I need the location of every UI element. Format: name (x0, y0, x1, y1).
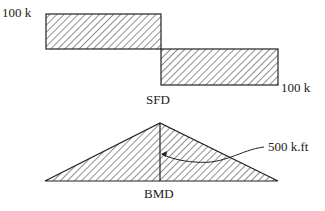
bending-moment-diagram (45, 123, 278, 181)
sfd-left-value: 100 k (2, 5, 31, 21)
bmd-max-value: 500 k.ft (268, 139, 308, 155)
sfd-positive-region (46, 14, 161, 49)
sfd-title: SFD (146, 92, 170, 108)
sfd-right-value: 100 k (281, 80, 310, 96)
shear-force-diagram (46, 14, 278, 85)
bmd-title: BMD (144, 186, 174, 202)
bmd-triangle (45, 123, 278, 181)
sfd-negative-region (161, 49, 278, 85)
